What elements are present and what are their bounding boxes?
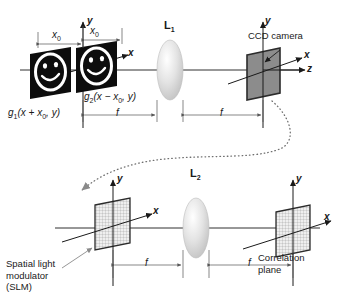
offset-label-left: x0 bbox=[52, 30, 61, 42]
slm-label-line3: (SLM) bbox=[6, 281, 55, 293]
figure-canvas: y x y x z x0 x0 g1(x + x0, y) g2(x − x0,… bbox=[0, 0, 337, 307]
axis-label-z-detector: z bbox=[307, 64, 312, 74]
slm-label-line2: modulator bbox=[6, 270, 55, 282]
axis-label-x-detector: x bbox=[304, 50, 310, 60]
axis-label-y-slm: y bbox=[117, 174, 123, 184]
focal-label-bottom-left: f bbox=[145, 258, 148, 268]
input-transparency-1 bbox=[30, 47, 71, 99]
focal-label-top-right: f bbox=[220, 108, 223, 118]
axis-label-x-slm: x bbox=[153, 206, 159, 216]
focal-label-bottom-right: f bbox=[248, 258, 251, 268]
slm-label: Spatial light modulator (SLM) bbox=[6, 258, 55, 293]
axis-label-y-detector: y bbox=[265, 16, 271, 26]
focal-dimension-top-right bbox=[183, 100, 263, 122]
lens-L1 bbox=[157, 40, 183, 100]
correlation-plane-line2: plane bbox=[258, 264, 304, 276]
axis-label-y-output: y bbox=[296, 174, 302, 184]
signal-path-dotted bbox=[82, 101, 290, 190]
axis-label-x-input: x bbox=[128, 48, 134, 58]
lens-label-L2: L2 bbox=[190, 168, 201, 181]
slm-label-line1: Spatial light bbox=[6, 258, 55, 270]
input-transparency-2 bbox=[76, 41, 117, 93]
focal-label-top-left: f bbox=[116, 108, 119, 118]
input-function-label-1: g1(x + x0, y) bbox=[8, 108, 60, 120]
lens-L2 bbox=[183, 198, 209, 258]
correlation-plane-line1: Correlation bbox=[258, 252, 304, 264]
ccd-camera-label: CCD camera bbox=[248, 30, 303, 42]
offset-label-right: x0 bbox=[90, 26, 99, 38]
lens-label-L1: L1 bbox=[164, 20, 175, 33]
correlation-plane-label: Correlation plane bbox=[258, 252, 304, 275]
axis-label-x-output: x bbox=[324, 212, 330, 222]
focal-dimension-bottom-left bbox=[113, 250, 183, 278]
slm-callout-leader bbox=[62, 248, 92, 268]
input-function-label-2: g2(x − x0, y) bbox=[84, 92, 136, 104]
